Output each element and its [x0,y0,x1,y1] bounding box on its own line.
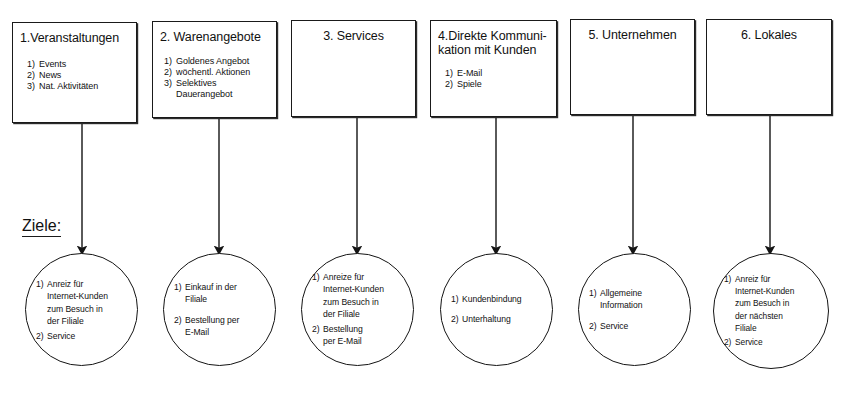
list-item: 2)Service [589,320,680,333]
category-box-1[interactable]: 1.Veranstaltungen 1)Events 2)News 3)Nat.… [12,22,137,123]
list-item: 1)Einkauf in der Filiale [174,280,265,305]
category-box-5[interactable]: 5. Unternehmen [570,19,695,115]
goal-items-1: 1)Anreiz für Internet-Kunden zum Besuch … [26,277,137,342]
list-item: 1)Goldenes Angebot [164,56,270,67]
category-box-2[interactable]: 2. Warenangebote 1)Goldenes Angebot 2)wö… [152,21,277,118]
goals-label: Ziele: [22,217,61,237]
goal-items-6: 1)Anreiz für Internet-Kunden zum Besuch … [714,273,828,348]
goal-circle-2[interactable]: 1)Einkauf in der Filiale 2)Bestellung pe… [163,253,276,366]
category-title-6: 6. Lokales [707,29,831,43]
goal-items-5: 1)Allgemeine Information 2)Service [579,287,690,333]
list-item: 1)E-Mail [445,68,550,79]
category-title-2: 2. Warenangebote [153,31,276,45]
list-item: 1)Anreiz für Internet-Kunden zum Besuch … [36,277,127,327]
list-item: 2)Unterhaltung [451,314,542,327]
goal-items-2: 1)Einkauf in der Filiale 2)Bestellung pe… [164,280,275,338]
list-item: 1)Kundenbindung [451,293,542,306]
goal-circle-6[interactable]: 1)Anreiz für Internet-Kunden zum Besuch … [713,253,829,369]
category-title-3: 3. Services [292,30,415,44]
category-title-1: 1.Veranstaltungen [13,32,136,46]
category-box-4[interactable]: 4.Direkte Kommuni- kation mit Kunden 1)E… [430,20,557,117]
list-item: 1)Allgemeine Information [589,287,680,312]
category-title-4: 4.Direkte Kommuni- kation mit Kunden [431,30,556,57]
list-item: 1)Anreize für Internet-Kunden zum Besuch… [312,271,403,321]
list-item: 3)Selektives Dauerangebot [164,78,270,100]
goal-items-4: 1)Kundenbindung 2)Unterhaltung [441,293,552,326]
list-item: 2)Spiele [445,79,550,90]
list-item: 3)Nat. Aktivitäten [27,81,130,92]
list-item: 1)Events [27,59,130,70]
diagram-canvas: 1.Veranstaltungen 1)Events 2)News 3)Nat.… [0,0,845,394]
goal-circle-1[interactable]: 1)Anreiz für Internet-Kunden zum Besuch … [25,253,138,366]
goal-items-3: 1)Anreize für Internet-Kunden zum Besuch… [302,271,413,349]
category-items-2: 1)Goldenes Angebot 2)wöchentl. Aktionen … [164,56,270,100]
list-item: 2)Bestellung per E-Mail [174,314,265,339]
goal-circle-3[interactable]: 1)Anreize für Internet-Kunden zum Besuch… [301,253,414,366]
category-title-5: 5. Unternehmen [571,29,694,43]
category-box-6[interactable]: 6. Lokales [706,19,832,115]
goal-circle-5[interactable]: 1)Allgemeine Information 2)Service [578,253,691,366]
list-item: 1)Anreiz für Internet-Kunden zum Besuch … [724,273,818,334]
list-item: 2)Service [724,336,818,348]
category-box-3[interactable]: 3. Services [291,20,416,117]
list-item: 2)wöchentl. Aktionen [164,67,270,78]
list-item: 2)Bestellung per E-Mail [312,323,403,348]
list-item: 2)News [27,70,130,81]
category-items-1: 1)Events 2)News 3)Nat. Aktivitäten [27,59,130,92]
category-items-4: 1)E-Mail 2)Spiele [445,68,550,90]
list-item: 2)Service [36,329,127,342]
goal-circle-4[interactable]: 1)Kundenbindung 2)Unterhaltung [440,253,553,366]
